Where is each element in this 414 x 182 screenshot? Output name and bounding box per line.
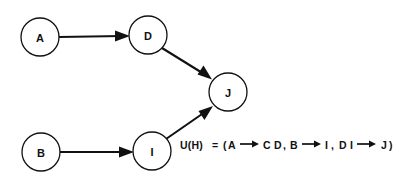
edge-i-to-j [166,106,213,139]
rule-2-consequent: I [325,139,328,151]
node-j-label: J [225,87,231,99]
annotation-formula: U(H) = ( A C D , B I , D I [180,139,393,151]
node-i-label: I [150,146,153,158]
rule-1-separator: , [283,139,286,151]
edge-i-to-j-line [166,112,205,139]
edge-a-to-d-line [59,36,122,37]
node-a[interactable]: A [21,18,59,56]
rule-1-consequent: C D [263,139,282,151]
node-i[interactable]: I [133,132,171,170]
formula-lhs: U(H) [180,139,203,151]
node-b[interactable]: B [22,133,60,171]
formula-close-paren: ) [389,139,393,151]
node-d[interactable]: D [129,16,167,54]
rule-2-antecedent: B [290,139,298,151]
edge-d-to-j-arrowhead [198,66,213,80]
edge-d-to-j [162,48,212,80]
node-a-label: A [36,32,44,44]
formula-equals: = [212,139,218,151]
node-b-label: B [37,147,45,159]
rule-3-antecedent: D I [339,139,353,151]
node-d-label: D [144,30,152,42]
rule-2-separator: , [331,139,334,151]
figure-root: A D J B I U(H) = ( [0,0,414,182]
edge-a-to-d [59,31,130,42]
edge-a-to-d-arrowhead [115,31,130,42]
formula-open-paren: ( [223,139,227,151]
rule-1-antecedent: A [228,139,236,151]
edge-i-to-j-arrowhead [199,106,214,120]
graph-canvas: A D J B I U(H) = ( [0,0,414,182]
edge-d-to-j-line [162,48,204,74]
edge-b-to-i-arrowhead [119,147,134,158]
edge-b-to-i [60,147,134,158]
node-j[interactable]: J [209,73,247,111]
rule-3-consequent: J [381,139,387,151]
right-arrow-icon [302,141,321,148]
right-arrow-icon [240,141,259,148]
right-arrow-icon [357,141,376,148]
